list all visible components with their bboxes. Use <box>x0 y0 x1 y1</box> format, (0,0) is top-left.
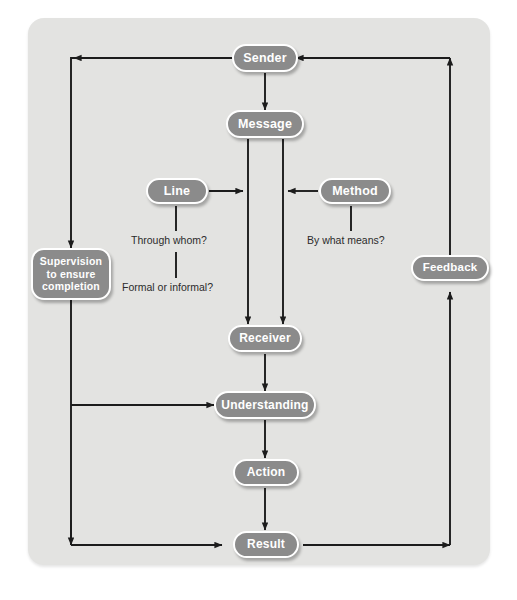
node-supervision[interactable]: Supervision to ensure completion <box>31 248 111 300</box>
node-message[interactable]: Message <box>226 110 304 138</box>
edge-sender-supervision <box>71 58 238 248</box>
node-understanding[interactable]: Understanding <box>214 391 316 419</box>
node-sender-label: Sender <box>243 51 287 66</box>
node-method[interactable]: Method <box>319 178 391 204</box>
node-line-label: Line <box>164 184 191 199</box>
node-feedback-label: Feedback <box>423 261 478 275</box>
diagram-edges <box>0 0 517 600</box>
node-message-label: Message <box>238 117 292 132</box>
node-result-label: Result <box>247 537 285 551</box>
annotation-formal-or-informal: Formal or informal? <box>122 281 213 293</box>
node-sender[interactable]: Sender <box>232 44 298 72</box>
node-result[interactable]: Result <box>233 531 299 558</box>
node-feedback[interactable]: Feedback <box>411 255 489 281</box>
node-understanding-label: Understanding <box>221 398 308 412</box>
node-receiver[interactable]: Receiver <box>228 325 302 352</box>
node-method-label: Method <box>332 184 378 199</box>
node-supervision-label: Supervision to ensure completion <box>37 255 105 292</box>
node-action[interactable]: Action <box>233 459 299 486</box>
annotation-by-what-means: By what means? <box>307 234 385 246</box>
annotation-through-whom: Through whom? <box>131 234 207 246</box>
node-receiver-label: Receiver <box>239 331 291 345</box>
communication-flow-diagram: Sender Message Line Method Supervision t… <box>0 0 517 600</box>
node-action-label: Action <box>247 465 286 479</box>
node-line[interactable]: Line <box>146 178 208 204</box>
